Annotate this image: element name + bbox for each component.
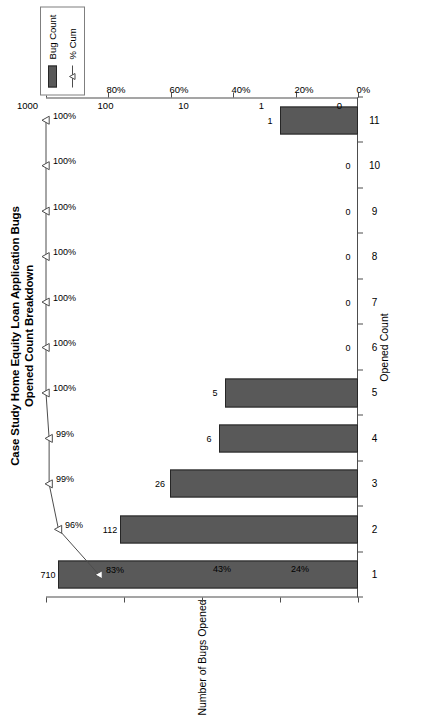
x-axis-tick xyxy=(358,596,363,597)
legend-item-pct-cum[interactable]: % Cum xyxy=(67,14,78,87)
extra-annotation-label: 24% xyxy=(291,563,309,573)
y-axis-tick xyxy=(280,597,281,602)
cumulative-value-label: 83% xyxy=(106,564,124,574)
chart-legend[interactable]: Bug Count % Cum xyxy=(40,6,85,95)
y2-axis-tick-label: 80% xyxy=(107,84,141,95)
x-axis-tick xyxy=(358,551,363,552)
y-axis-tick-label: 100 xyxy=(89,100,123,111)
cumulative-value-label: 100% xyxy=(53,201,76,211)
line-series-pct-cum xyxy=(46,97,358,597)
y-axis-tick-label: 0 xyxy=(323,100,357,111)
x-axis-tick xyxy=(358,323,363,324)
y-axis-tick xyxy=(46,597,47,602)
x-axis-tick xyxy=(358,278,363,279)
y-axis-tick-label: 10 xyxy=(167,100,201,111)
legend-item-label: % Cum xyxy=(67,28,78,59)
x-axis-tick xyxy=(358,414,363,415)
x-axis-tick xyxy=(358,505,363,506)
legend-item-bug-count[interactable]: Bug Count xyxy=(47,14,58,87)
cumulative-value-label: 100% xyxy=(53,155,76,165)
y2-axis-tick-label: 20% xyxy=(294,84,328,95)
y-axis-tick-label: 1 xyxy=(245,100,279,111)
y-axis-title-text: Number of Bugs Opened xyxy=(196,599,208,715)
x-axis-title-text: Opened Count xyxy=(378,313,390,381)
cumulative-point-marker[interactable] xyxy=(42,116,49,124)
cumulative-value-label: 100% xyxy=(53,110,76,120)
x-axis-tick xyxy=(358,369,363,370)
line-triangle-marker-icon xyxy=(68,65,77,87)
x-axis-tick xyxy=(358,141,363,142)
cumulative-value-label: 99% xyxy=(56,428,74,438)
y2-axis-tick-label: 60% xyxy=(169,84,203,95)
y2-axis-tick-label: 0% xyxy=(357,84,391,95)
plot-area: 7101122665000001 83%96%99%99%100%100%100… xyxy=(46,97,358,597)
cumulative-value-label: 99% xyxy=(56,473,74,483)
extra-annotation-label: 43% xyxy=(213,563,231,573)
bar-swatch-icon xyxy=(48,65,57,87)
y2-axis-tick-label: 40% xyxy=(232,84,266,95)
y-axis-tick xyxy=(202,597,203,602)
legend-item-label: Bug Count xyxy=(47,14,58,59)
y-axis-tick xyxy=(358,597,359,602)
cumulative-value-label: 96% xyxy=(65,519,83,529)
cumulative-value-label: 100% xyxy=(53,292,76,302)
y-axis-title: Number of Bugs Opened xyxy=(46,649,358,665)
x-axis-tick xyxy=(358,460,363,461)
x-axis-title: Opened Count xyxy=(378,97,390,597)
cumulative-value-label: 100% xyxy=(53,382,76,392)
y-axis-tick xyxy=(124,597,125,602)
x-axis-tick xyxy=(358,187,363,188)
plot-inner: 7101122665000001 83%96%99%99%100%100%100… xyxy=(46,97,358,597)
cumulative-value-label: 100% xyxy=(53,337,76,347)
cumulative-value-label: 100% xyxy=(53,246,76,256)
x-axis-tick xyxy=(358,96,363,97)
x-axis-tick xyxy=(358,232,363,233)
y-axis-tick-label: 1000 xyxy=(11,100,45,111)
